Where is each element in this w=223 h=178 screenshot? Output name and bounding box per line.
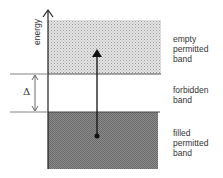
energy-axis-label: energy: [32, 19, 42, 45]
empty-band-label: empty permitted band: [173, 34, 208, 64]
empty-band: [48, 20, 161, 74]
filled-band-label: filled permitted band: [173, 128, 208, 158]
gap-delta-label: Δ: [23, 86, 30, 97]
forbidden-band-label: forbidden band: [173, 85, 208, 105]
filled-band: [48, 112, 158, 169]
electron-dot: [95, 134, 100, 139]
